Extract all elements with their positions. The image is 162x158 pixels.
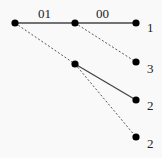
node-leaf-1 — [132, 19, 139, 26]
node-leaf-2a — [132, 96, 139, 103]
node-leaf-3 — [132, 58, 139, 65]
edge-mid-low-to-leaf-2a — [75, 64, 136, 100]
node-mid-low — [71, 60, 78, 67]
leaf-label-3: 3 — [147, 61, 154, 76]
node-root — [11, 19, 18, 26]
leaf-label-2b: 2 — [147, 136, 154, 151]
edge-root-to-mid-low — [15, 23, 75, 64]
tree-diagram-svg: 01 00 1 3 2 2 — [0, 0, 162, 158]
edge-label-01: 01 — [38, 6, 51, 21]
edge-label-00: 00 — [96, 6, 109, 21]
leaf-label-1: 1 — [147, 20, 154, 35]
tree-diagram: 01 00 1 3 2 2 — [0, 0, 162, 158]
node-leaf-2b — [132, 133, 139, 140]
node-mid-top — [71, 19, 78, 26]
edge-mid-top-to-leaf-3 — [75, 23, 136, 62]
edge-mid-low-to-leaf-2b — [75, 64, 136, 137]
leaf-label-2a: 2 — [147, 98, 154, 113]
